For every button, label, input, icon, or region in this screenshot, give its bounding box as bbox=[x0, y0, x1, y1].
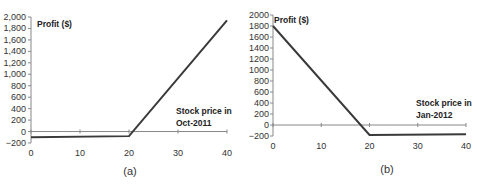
y-tick-label: 2000 bbox=[249, 10, 269, 20]
chart-panel-b: −200020040060080010001200140016001800200… bbox=[249, 10, 472, 175]
y-axis-label: Profit ($) bbox=[37, 19, 72, 29]
x-tick-label: 30 bbox=[413, 141, 423, 151]
chart-canvas: −20002004006008001,0001,2001,4001,6001,8… bbox=[0, 0, 477, 187]
y-tick-label: 600 bbox=[254, 87, 269, 97]
y-tick-label: 1000 bbox=[249, 65, 269, 75]
y-tick-label: 1,400 bbox=[3, 46, 26, 56]
x-tick-label: 20 bbox=[124, 148, 134, 158]
x-tick-label: 0 bbox=[270, 141, 275, 151]
x-tick-label: 20 bbox=[364, 141, 374, 151]
y-tick-label: 1,000 bbox=[3, 69, 26, 79]
y-tick-label: 2,000 bbox=[3, 12, 26, 22]
panel-caption: (b) bbox=[380, 163, 393, 175]
y-tick-label: 0 bbox=[21, 127, 26, 137]
x-tick-label: 0 bbox=[28, 148, 33, 158]
y-tick-label: 800 bbox=[11, 81, 26, 91]
x-axis-label: Stock price in bbox=[416, 98, 472, 108]
x-tick-label: 10 bbox=[316, 141, 326, 151]
y-tick-label: 200 bbox=[254, 109, 269, 119]
y-tick-label: 0 bbox=[264, 120, 269, 130]
y-tick-label: 800 bbox=[254, 76, 269, 86]
y-tick-label: 1,800 bbox=[3, 23, 26, 33]
y-axis-label: Profit ($) bbox=[274, 15, 309, 25]
x-tick-label: 40 bbox=[222, 148, 232, 158]
x-axis-label: Stock price in bbox=[176, 106, 232, 116]
y-tick-label: 1,200 bbox=[3, 58, 26, 68]
x-tick-label: 40 bbox=[461, 141, 471, 151]
y-tick-label: 1,600 bbox=[3, 35, 26, 45]
x-axis-label: Jan-2012 bbox=[416, 110, 453, 120]
x-tick-label: 30 bbox=[173, 148, 183, 158]
x-axis-label: Oct-2011 bbox=[176, 118, 212, 128]
chart-panel-a: −20002004006008001,0001,2001,4001,6001,8… bbox=[3, 12, 232, 177]
y-tick-label: 1400 bbox=[249, 43, 269, 53]
y-tick-label: −200 bbox=[6, 138, 26, 148]
panel-caption: (a) bbox=[123, 165, 136, 177]
y-tick-label: 1200 bbox=[249, 54, 269, 64]
y-tick-label: 400 bbox=[254, 98, 269, 108]
y-tick-label: 200 bbox=[11, 115, 26, 125]
y-tick-label: 1600 bbox=[249, 32, 269, 42]
y-tick-label: −200 bbox=[249, 131, 269, 141]
y-tick-label: 400 bbox=[11, 104, 26, 114]
y-tick-label: 1800 bbox=[249, 21, 269, 31]
x-tick-label: 10 bbox=[75, 148, 85, 158]
y-tick-label: 600 bbox=[11, 92, 26, 102]
